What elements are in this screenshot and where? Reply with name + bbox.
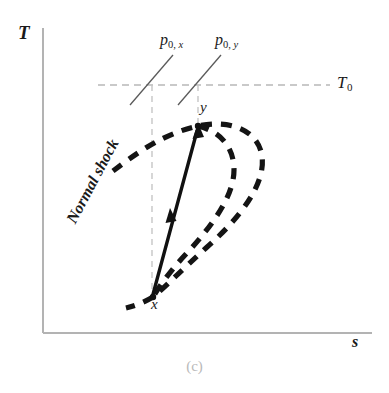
state-point-x-label: x [151, 297, 158, 312]
p0y-sub-zero: 0, [223, 39, 231, 50]
stagnation-temperature-symbol: T [337, 73, 346, 92]
x-axis-label: s [352, 334, 358, 350]
fanno-line-curve [113, 124, 262, 308]
stagnation-pressure-y-label: p0, y [215, 32, 238, 48]
state-point-y-label: y [200, 100, 207, 115]
y-axis-label: T [18, 23, 30, 42]
p0x-subscript: 0, x [168, 39, 183, 50]
p0y-sub-var: y [234, 39, 239, 50]
leader-line-p0y [178, 55, 221, 105]
pressure-leader-lines [130, 55, 221, 105]
p0x-sub-var: x [179, 39, 184, 50]
p0y-symbol: p [215, 31, 223, 48]
stagnation-temperature-label: T0 [337, 74, 352, 91]
rayleigh-line-curve [153, 126, 234, 297]
ts-diagram-canvas [0, 0, 389, 393]
normal-shock-arrow-shaft [152, 131, 197, 298]
p0y-subscript: 0, y [223, 39, 238, 50]
figure-caption: (c) [0, 358, 389, 375]
p0x-symbol: p [160, 31, 168, 48]
stagnation-temperature-subscript: 0 [347, 81, 353, 93]
ts-diagram-figure: T s T0 p0, x p0, y x y Normal shock (c) [0, 0, 389, 393]
stagnation-pressure-x-label: p0, x [160, 32, 183, 48]
state-point-y-marker [195, 123, 201, 129]
p0x-sub-zero: 0, [168, 39, 176, 50]
